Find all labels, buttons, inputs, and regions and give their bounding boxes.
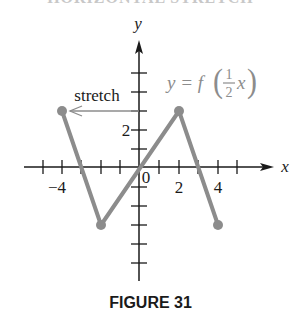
y-tick-label-2: 2 — [122, 121, 131, 140]
graph: y x 2 −4 0 2 4 stretch y = f ( 1 2 x ) — [0, 0, 301, 314]
x-tick-label-2: 2 — [175, 178, 184, 197]
endpoint-right — [213, 220, 223, 230]
function-label-var: x — [236, 72, 246, 93]
function-label: y = f ( 1 2 x ) — [165, 63, 257, 100]
origin-label: 0 — [142, 168, 151, 187]
endpoint-left — [57, 106, 67, 116]
x-axis-label: x — [280, 157, 289, 176]
function-label-prefix: y = f — [165, 72, 206, 93]
open-paren: ( — [213, 63, 223, 100]
fraction-denominator: 2 — [226, 85, 233, 100]
x-tick-label-4: 4 — [214, 178, 223, 197]
x-tick-label-neg4: −4 — [48, 178, 67, 197]
close-paren: ) — [247, 63, 257, 100]
y-axis-label: y — [132, 14, 142, 33]
vertex-max — [174, 106, 184, 116]
stretch-label: stretch — [74, 86, 120, 105]
figure-caption: FIGURE 31 — [0, 294, 301, 312]
fraction-numerator: 1 — [226, 67, 233, 82]
function-curve — [62, 111, 218, 225]
vertex-min — [96, 220, 106, 230]
